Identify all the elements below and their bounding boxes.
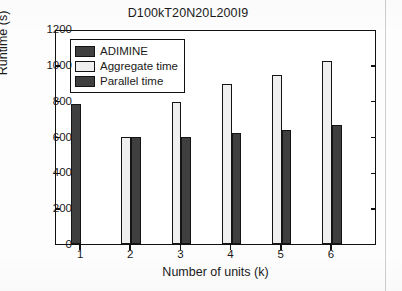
x-tick-mark <box>129 245 131 250</box>
bar <box>332 125 342 244</box>
legend-swatch-icon <box>75 46 95 57</box>
y-tick-label: 600 <box>28 131 72 143</box>
y-tick-label: 1000 <box>28 59 72 71</box>
figure-canvas: D100kT20N20L200I9 ADIMINEAggregate timeP… <box>0 0 402 291</box>
legend-label: ADIMINE <box>100 45 148 57</box>
bar <box>222 84 232 244</box>
legend-label: Aggregate time <box>100 60 178 72</box>
bar <box>172 102 182 244</box>
y-tick-mark <box>55 208 60 210</box>
bar <box>181 137 191 245</box>
y-tick-mark <box>55 173 60 175</box>
legend-swatch-icon <box>75 61 95 72</box>
y-tick-mark <box>55 137 60 139</box>
bar <box>272 75 282 244</box>
y-tick-mark <box>55 65 60 67</box>
bar <box>232 133 242 244</box>
scan-artifact-line <box>385 0 386 291</box>
x-tick-mark <box>230 245 232 250</box>
legend-label: Parallel time <box>100 75 163 87</box>
y-tick-mark-right <box>371 65 376 67</box>
bar <box>131 137 141 244</box>
y-tick-label: 800 <box>28 95 72 107</box>
y-tick-label: 200 <box>28 202 72 214</box>
y-tick-mark-right <box>371 208 376 210</box>
chart-title: D100kT20N20L200I9 <box>0 6 376 20</box>
legend-item: ADIMINE <box>75 44 178 58</box>
y-tick-mark <box>55 101 60 103</box>
x-tick-mark <box>280 245 282 250</box>
y-axis-title: Runtime (s) <box>0 0 10 98</box>
legend: ADIMINEAggregate timeParallel time <box>70 39 185 93</box>
x-tick-mark <box>180 245 182 250</box>
y-tick-mark-right <box>371 173 376 175</box>
bar <box>121 137 131 244</box>
y-tick-label: 1200 <box>28 23 72 35</box>
x-tick-mark <box>330 245 332 250</box>
bar <box>71 104 81 244</box>
plot-area: ADIMINEAggregate timeParallel time <box>55 30 376 245</box>
x-axis-title: Number of units (k) <box>55 265 376 279</box>
y-tick-label: 400 <box>28 166 72 178</box>
bar <box>322 61 332 244</box>
bar <box>282 130 292 244</box>
y-tick-mark-right <box>371 101 376 103</box>
legend-swatch-icon <box>75 76 95 87</box>
legend-item: Aggregate time <box>75 59 178 73</box>
y-tick-mark-right <box>371 137 376 139</box>
legend-item: Parallel time <box>75 74 178 88</box>
x-tick-mark <box>79 245 81 250</box>
